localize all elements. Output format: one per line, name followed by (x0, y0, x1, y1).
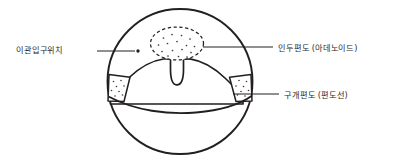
anatomy-illustration (0, 0, 393, 165)
diagram-canvas: 이관입구위치 인두편도 (아데노이드) 구개편도 (편도선) (0, 0, 393, 165)
eustachian-opening-dot-icon (136, 49, 139, 52)
label-palatine-tonsil: 구개편도 (편도선) (284, 91, 348, 101)
adenoid-dashed-oval-icon (151, 27, 204, 60)
label-adenoid: 인두편도 (아데노이드) (278, 44, 357, 54)
label-eustachian-opening: 이관입구위치 (16, 46, 63, 56)
